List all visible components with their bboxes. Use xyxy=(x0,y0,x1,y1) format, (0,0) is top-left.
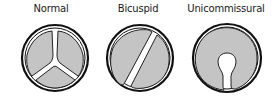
valve-normal xyxy=(22,25,88,91)
valve-diagrams xyxy=(0,0,280,104)
valve-unicommissural xyxy=(193,24,261,92)
valve-bicuspid xyxy=(107,25,173,91)
